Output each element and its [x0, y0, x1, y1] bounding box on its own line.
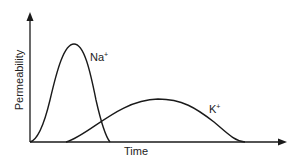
- y-axis-arrow-icon: [27, 12, 34, 21]
- k-label: K+: [209, 103, 220, 115]
- y-axis-label: Permeability: [13, 49, 25, 110]
- na-label: Na+: [90, 51, 108, 63]
- permeability-chart: Na+ K+ Time Permeability: [0, 0, 296, 163]
- x-axis-arrow-icon: [278, 139, 287, 146]
- x-axis-label: Time: [124, 145, 148, 157]
